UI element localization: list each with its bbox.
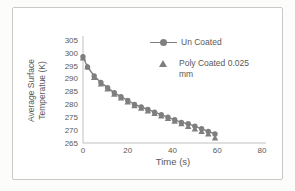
triangle-marker-icon — [159, 60, 167, 67]
y-tick-label: 300 — [65, 49, 79, 58]
x-tick-label: 0 — [81, 146, 86, 155]
y-tick-label: 270 — [65, 126, 79, 135]
y-tick-label: 285 — [65, 87, 79, 96]
legend-item-uncoated: Un Coated — [150, 37, 222, 47]
y-tick-label: 280 — [65, 100, 79, 109]
x-tick-label: 20 — [123, 146, 132, 155]
x-tick-label: 80 — [258, 146, 267, 155]
y-tick-label: 275 — [65, 113, 79, 122]
uncoated-line-marker-icon — [150, 38, 177, 47]
legend-label-polycoated: Poly Coated 0.025 mm — [179, 58, 261, 80]
legend-item-polycoated: Poly Coated 0.025 mm — [159, 58, 261, 80]
x-axis-title: Time (s) — [83, 156, 263, 167]
x-tick-label: 40 — [168, 146, 177, 155]
y-tick-label: 295 — [65, 62, 79, 71]
y-tick-label: 265 — [65, 139, 79, 148]
chart-screenshot: 265270275280285290295300305020406080 Ave… — [0, 0, 295, 191]
x-tick-label: 60 — [213, 146, 222, 155]
y-axis-title-line1: Average Surface — [26, 36, 37, 146]
legend-label-uncoated: Un Coated — [181, 37, 222, 47]
y-axis-title: Average Surface Temperatue (K) — [26, 36, 47, 146]
y-tick-label: 290 — [65, 74, 79, 83]
y-tick-label: 305 — [65, 36, 79, 45]
y-axis-title-line2: Temperatue (K) — [36, 36, 47, 146]
